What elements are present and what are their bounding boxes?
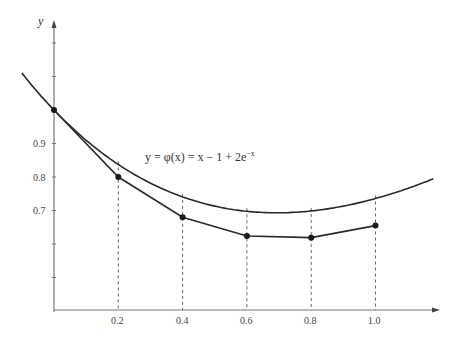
- equation-exponent: −x: [246, 149, 255, 158]
- euler-method-chart: y 0.9 0.8 0.7 0.2 0.4 0.6 0.8 1.0 y = φ(…: [0, 0, 460, 337]
- data-point-marker: [244, 233, 250, 239]
- data-point-marker: [180, 214, 186, 220]
- x-tick-label-0.2: 0.2: [111, 315, 124, 326]
- exact-solution-curve: [22, 73, 434, 213]
- euler-points: [51, 107, 379, 241]
- y-tick-label-0.9: 0.9: [33, 138, 46, 149]
- y-tick-label-0.7: 0.7: [33, 205, 46, 216]
- x-tick-label-1.0: 1.0: [368, 315, 381, 326]
- x-axis-arrow-icon: [432, 308, 440, 313]
- x-tick-label-0.6: 0.6: [240, 315, 253, 326]
- y-axis-label: y: [37, 14, 44, 28]
- axes: [52, 20, 441, 313]
- data-point-marker: [115, 174, 121, 180]
- data-point-marker: [308, 235, 314, 241]
- euler-approximation-line: [54, 110, 376, 238]
- equation-main: y = φ(x) = x − 1 + 2e: [145, 150, 246, 164]
- y-tick-label-0.8: 0.8: [33, 172, 46, 183]
- x-tick-label-0.4: 0.4: [176, 315, 189, 326]
- chart-container: y 0.9 0.8 0.7 0.2 0.4 0.6 0.8 1.0 y = φ(…: [0, 0, 460, 337]
- y-axis-arrow-icon: [52, 20, 57, 28]
- data-point-marker: [373, 223, 379, 229]
- data-point-marker: [51, 107, 57, 113]
- equation-annotation: y = φ(x) = x − 1 + 2e−x: [145, 149, 255, 164]
- x-tick-label-0.8: 0.8: [304, 315, 317, 326]
